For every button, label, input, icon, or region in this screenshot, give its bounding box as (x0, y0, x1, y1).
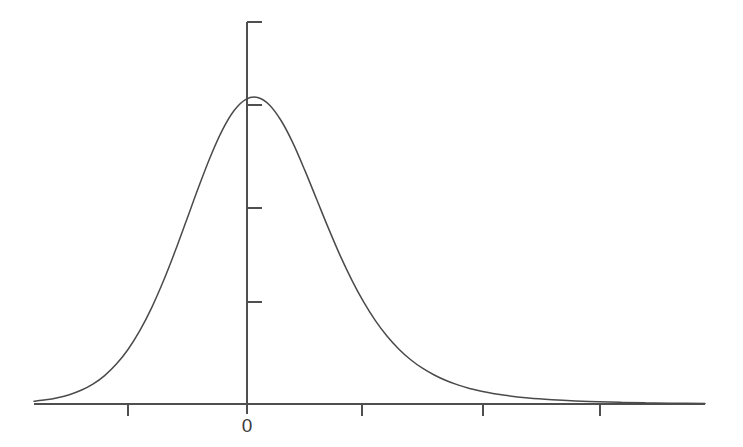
y-axis-tick-group (247, 22, 262, 302)
x-axis-tick-group (128, 404, 600, 416)
density-plot-figure: 0 (0, 0, 743, 447)
density-curve (34, 97, 705, 403)
x-axis-zero-label: 0 (242, 415, 253, 436)
plot-canvas: 0 (0, 0, 743, 447)
